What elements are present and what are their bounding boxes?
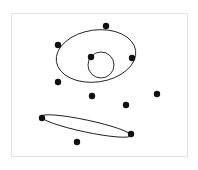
data-point: [55, 42, 61, 48]
data-point: [129, 55, 135, 61]
flat-ellipse: [40, 111, 132, 142]
ellipse-layer: [40, 25, 139, 142]
data-point: [123, 102, 129, 108]
data-point: [89, 93, 95, 99]
data-point: [88, 54, 94, 60]
data-point: [154, 91, 160, 97]
data-point: [128, 131, 134, 137]
large-ellipse: [53, 25, 139, 88]
data-point: [103, 23, 109, 29]
figure-container: [0, 0, 198, 170]
data-point: [39, 115, 45, 121]
figure-canvas: [0, 0, 198, 170]
point-layer: [39, 23, 160, 145]
data-point: [74, 139, 80, 145]
data-point: [55, 79, 61, 85]
